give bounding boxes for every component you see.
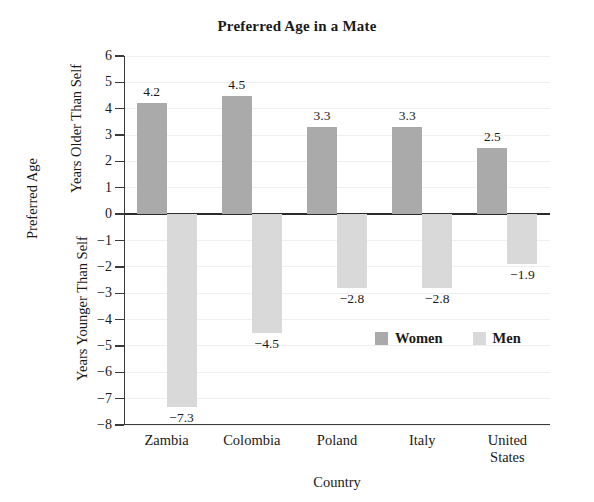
y-axis-tick-label: −4	[86, 313, 112, 327]
y-axis-label: Preferred Age	[24, 129, 41, 269]
y-axis-tick	[115, 213, 124, 214]
bar-men-poland[interactable]	[337, 214, 367, 288]
bar-value-label: −7.3	[152, 411, 212, 425]
bar-women-colombia[interactable]	[222, 96, 252, 215]
x-tick-label-colombia: Colombia	[204, 432, 300, 449]
bar-value-label: −2.8	[322, 292, 382, 306]
y-axis-tick-label: 4	[86, 102, 112, 116]
legend-item-women: Women	[375, 330, 443, 347]
x-tick-label-zambia: Zambia	[119, 432, 215, 449]
y-axis-tick	[115, 55, 124, 56]
bar-value-label: 3.3	[377, 109, 437, 123]
y-axis-tick-label: 3	[86, 128, 112, 142]
y-axis-tick	[115, 319, 124, 320]
bar-value-label: −1.9	[492, 268, 552, 282]
y-axis-tick	[115, 266, 124, 267]
y-axis-tick-label: −3	[86, 286, 112, 300]
bar-value-label: 4.5	[207, 78, 267, 92]
x-tick-label-poland: Poland	[289, 432, 385, 449]
bar-men-italy[interactable]	[422, 214, 452, 288]
y-axis-tick-label: 1	[86, 181, 112, 195]
y-axis-tick	[115, 82, 124, 83]
x-tick-label-united-states: UnitedStates	[459, 432, 555, 466]
y-axis-tick	[115, 424, 124, 425]
bar-men-united-states[interactable]	[507, 214, 537, 264]
y-axis-tick	[115, 240, 124, 241]
y-axis-tick-label: −6	[86, 365, 112, 379]
y-axis-tick	[115, 187, 124, 188]
legend: Women Men	[375, 330, 521, 347]
y-axis-tick	[115, 161, 124, 162]
bar-men-colombia[interactable]	[252, 214, 282, 333]
y-axis-tick	[115, 108, 124, 109]
bar-women-italy[interactable]	[392, 127, 422, 214]
bar-value-label: −2.8	[407, 292, 467, 306]
bar-men-zambia[interactable]	[167, 214, 197, 406]
y-axis-tick-label: 0	[86, 207, 112, 221]
y-axis-tick	[115, 345, 124, 346]
legend-item-men: Men	[473, 330, 521, 347]
y-axis-tick-label: −7	[86, 392, 112, 406]
chart-container: Preferred Age in a Mate Preferred Age Ye…	[0, 0, 594, 502]
bar-women-zambia[interactable]	[137, 103, 167, 214]
y-axis-tick-label: −2	[86, 260, 112, 274]
y-axis-tick-label: 6	[86, 49, 112, 63]
y-axis-tick	[115, 134, 124, 135]
bar-value-label: 4.2	[122, 85, 182, 99]
bar-value-label: 3.3	[292, 109, 352, 123]
y-axis-label-upper: Years Older Than Self	[68, 49, 85, 209]
legend-label-women: Women	[395, 330, 443, 347]
y-axis-tick-label: −5	[86, 339, 112, 353]
bar-value-label: 2.5	[462, 130, 522, 144]
chart-title: Preferred Age in a Mate	[0, 18, 594, 35]
x-axis-label: Country	[124, 474, 550, 491]
y-axis-tick-label: 5	[86, 75, 112, 89]
y-axis-tick	[115, 398, 124, 399]
legend-swatch-men-icon	[473, 332, 486, 345]
y-axis-tick-label: −1	[86, 234, 112, 248]
x-tick-label-italy: Italy	[374, 432, 470, 449]
legend-swatch-women-icon	[375, 332, 388, 345]
legend-label-men: Men	[493, 330, 521, 347]
y-axis-tick-label: −8	[86, 418, 112, 432]
y-axis-tick	[115, 293, 124, 294]
y-axis-tick-label: 2	[86, 154, 112, 168]
bar-value-label: −4.5	[237, 337, 297, 351]
bar-women-poland[interactable]	[307, 127, 337, 214]
bar-women-united-states[interactable]	[477, 148, 507, 214]
y-axis-tick	[115, 372, 124, 373]
